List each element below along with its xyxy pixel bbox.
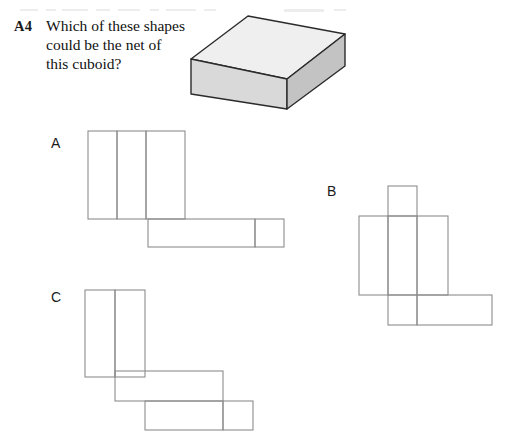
net-b-face-3	[388, 216, 417, 295]
net-a-face-4	[148, 219, 255, 247]
net-b-face-1	[388, 186, 417, 216]
question-text: Which of these shapes could be the net o…	[46, 16, 206, 73]
option-label-a: A	[51, 135, 60, 151]
net-b-face-5	[388, 295, 417, 325]
option-label-b: B	[327, 183, 336, 199]
cuboid-figure	[186, 12, 346, 110]
net-b-face-4	[417, 216, 448, 295]
question-line-1: Which of these shapes	[46, 17, 185, 34]
net-c-face-5	[223, 401, 253, 430]
net-a-face-3	[146, 131, 185, 219]
net-a-face-1	[88, 131, 117, 219]
net-c-face-2	[115, 290, 145, 377]
net-c-diagram[interactable]	[78, 284, 268, 439]
question-line-2: could be the net of	[46, 36, 161, 53]
net-a-diagram[interactable]	[80, 124, 295, 256]
net-b-diagram[interactable]	[352, 180, 502, 335]
option-label-c: C	[51, 289, 61, 305]
net-c-face-3	[115, 371, 223, 401]
net-b-face-2	[359, 216, 388, 295]
question-number: A4	[14, 18, 32, 35]
net-a-face-2	[117, 131, 146, 219]
net-c-face-4	[145, 401, 223, 430]
net-a-face-5	[255, 219, 284, 247]
net-b-face-6	[417, 295, 492, 325]
question-line-3: this cuboid?	[46, 55, 121, 72]
net-c-face-1	[85, 290, 115, 377]
